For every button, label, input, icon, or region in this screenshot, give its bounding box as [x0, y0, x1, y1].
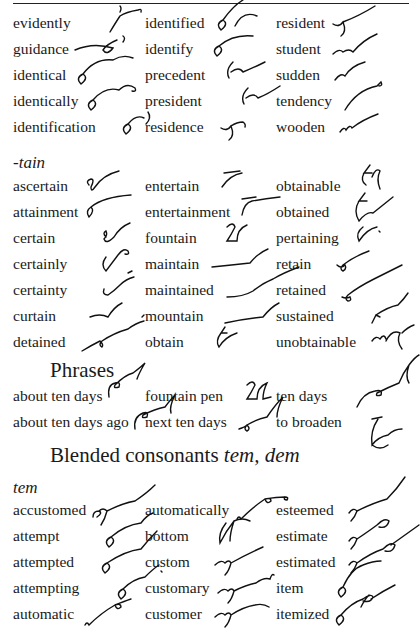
word: certain — [13, 225, 55, 251]
word: esteemed — [276, 497, 334, 523]
word: obtained — [276, 199, 329, 225]
word: certainly — [13, 251, 67, 277]
word: identify — [145, 36, 193, 62]
word-row: detained obtain unobtainable — [13, 329, 413, 355]
word: obtain — [145, 329, 184, 355]
word: attainment — [13, 199, 78, 225]
word: attempting — [13, 575, 79, 601]
word: identification — [13, 114, 96, 140]
word: certainty — [13, 277, 67, 303]
word: maintain — [145, 251, 199, 277]
word: ascertain — [13, 173, 68, 199]
word: sustained — [276, 303, 334, 329]
word: entertainment — [145, 199, 230, 225]
phrase: about ten days ago — [13, 409, 129, 435]
shorthand-outline-icon — [368, 415, 418, 465]
shorthand-outline-icon — [353, 353, 420, 411]
heading-italic-text: tem, dem — [224, 443, 300, 467]
shorthand-outline-icon — [338, 108, 388, 138]
word-list-tain: ascertain entertain obtainable attainmen… — [13, 173, 413, 355]
section-label-tain: -tain — [13, 153, 45, 173]
word: automatic — [13, 601, 74, 627]
phrase-row: about ten days ago next ten days to broa… — [13, 409, 413, 435]
word: itemized — [276, 601, 329, 627]
shorthand-outline-icon — [213, 323, 253, 353]
word: estimate — [276, 523, 328, 549]
word: precedent — [145, 62, 205, 88]
word: attempted — [13, 549, 74, 575]
phrase: next ten days — [145, 409, 227, 435]
word: fountain — [145, 225, 197, 251]
word: residence — [145, 114, 204, 140]
shorthand-outline-icon — [331, 583, 411, 629]
word: pertaining — [276, 225, 339, 251]
phrase-list: about ten days fountain pen ten days abo… — [13, 383, 413, 435]
word: unobtainable — [276, 329, 356, 355]
shorthand-outline-icon — [213, 595, 283, 631]
word: tendency — [276, 88, 332, 114]
word: resident — [276, 10, 325, 36]
word: identical — [13, 62, 66, 88]
word: wooden — [276, 114, 325, 140]
word: curtain — [13, 303, 56, 329]
word-row: identification residence wooden — [13, 114, 413, 140]
phrase-row: about ten days fountain pen ten days — [13, 383, 413, 409]
word: guidance — [13, 36, 69, 62]
phrase: about ten days — [13, 383, 103, 409]
word: accustomed — [13, 497, 86, 523]
word: evidently — [13, 10, 71, 36]
word-row: certainty maintained retained — [13, 277, 413, 303]
heading-text: Blended consonants — [50, 443, 224, 467]
section-label-tem: tem — [13, 478, 38, 498]
phrase: to broaden — [276, 409, 342, 435]
shorthand-outline-icon — [219, 108, 269, 144]
word: attempt — [13, 523, 60, 549]
word-row: automatic customer itemized — [13, 601, 413, 627]
word-list-block-1: evidently identified resident guidance i… — [13, 10, 413, 140]
word: identified — [145, 10, 204, 36]
word: customer — [145, 601, 202, 627]
word: detained — [13, 329, 66, 355]
word: entertain — [145, 173, 199, 199]
word: student — [276, 36, 321, 62]
word: identically — [13, 88, 78, 114]
section-heading-blended: Blended consonants tem, dem — [50, 443, 300, 468]
word-list-tem: accustomed automatically esteemed attemp… — [13, 497, 413, 627]
